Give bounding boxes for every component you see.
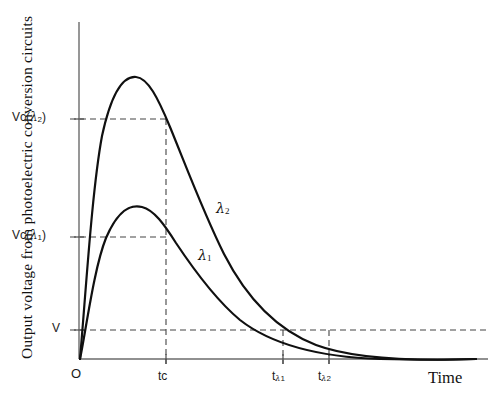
y-tick-label-vc-lambda1: Vc(λ1) — [12, 228, 46, 242]
y-axis-title: Output voltage from photoelectric conver… — [18, 19, 36, 359]
vc-prefix-1: Vc( — [12, 228, 30, 242]
paren-y1: ) — [42, 228, 46, 242]
x-axis-title: Time — [428, 368, 462, 388]
x-tick-label-t-lambda2: tλ2 — [318, 369, 331, 383]
x-tick-label-t-lambda1: tλ1 — [272, 369, 285, 383]
paren-y2: ) — [42, 110, 46, 124]
lambda-sub-x2: 2 — [326, 374, 330, 383]
origin-label: O — [71, 366, 81, 381]
lambda-glyph-curve2: λ — [216, 200, 225, 216]
lambda-glyph-y1: λ — [30, 228, 38, 242]
chart-figure: Output voltage from photoelectric conver… — [0, 0, 496, 402]
vc-prefix-2: Vc( — [12, 110, 30, 124]
plot-canvas — [0, 0, 496, 402]
lambda-sub-curve1: 1 — [207, 253, 212, 263]
lambda-sub-curve2: 2 — [225, 206, 230, 216]
curve-lambda1 — [80, 206, 476, 359]
y-tick-label-vc-lambda2: Vc(λ2) — [12, 110, 46, 124]
curve-label-lambda1: λ1 — [198, 247, 211, 264]
lambda-glyph-curve1: λ — [198, 247, 207, 263]
x-tick-label-tc: tc — [158, 369, 167, 383]
curve-lambda2 — [80, 77, 476, 360]
lambda-glyph-y2: λ — [30, 110, 38, 124]
lambda-sub-x1: 1 — [280, 374, 284, 383]
curve-label-lambda2: λ2 — [216, 200, 229, 217]
y-tick-label-v: V — [52, 321, 60, 335]
